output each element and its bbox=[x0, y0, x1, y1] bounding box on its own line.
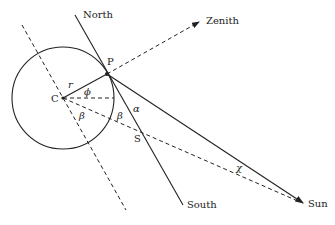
point-s-label: S bbox=[134, 133, 141, 144]
beta-left-label: β bbox=[78, 110, 85, 121]
alpha-label: α bbox=[133, 103, 140, 114]
sun-label: Sun bbox=[308, 198, 328, 209]
point-c-marker bbox=[61, 96, 64, 99]
earth-sun-geometry-diagram: North Zenith South Sun P C S r ϕ α β β χ bbox=[0, 0, 335, 225]
radius-label: r bbox=[68, 79, 74, 90]
zenith-label: Zenith bbox=[206, 15, 240, 26]
phi-label: ϕ bbox=[84, 86, 91, 97]
point-c-label: C bbox=[51, 93, 59, 104]
chi-label: χ bbox=[235, 162, 243, 173]
sun-line-from-c bbox=[63, 98, 300, 202]
zenith-arrow bbox=[107, 22, 199, 74]
point-p-marker bbox=[105, 72, 109, 76]
point-p-label: P bbox=[107, 56, 114, 67]
beta-right-label: β bbox=[116, 110, 123, 121]
south-label: South bbox=[187, 199, 217, 210]
north-label: North bbox=[83, 9, 114, 20]
